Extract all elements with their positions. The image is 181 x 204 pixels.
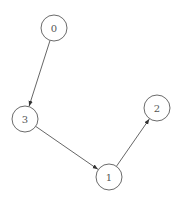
graph-node-0: 0 — [41, 15, 67, 41]
graph-canvas: 0123 — [0, 0, 181, 204]
graph-node-1: 1 — [96, 164, 122, 190]
edges-layer — [29, 40, 149, 169]
edge-3-to-1 — [36, 126, 98, 169]
arrow-icon — [116, 119, 149, 166]
node-label: 3 — [22, 114, 28, 125]
graph-node-2: 2 — [144, 95, 170, 121]
node-label: 2 — [154, 103, 160, 114]
edge-0-to-3 — [29, 40, 50, 106]
nodes-layer: 0123 — [12, 15, 170, 190]
graph-node-3: 3 — [12, 106, 38, 132]
edge-1-to-2 — [116, 119, 149, 166]
node-label: 1 — [106, 172, 112, 183]
node-label: 0 — [51, 23, 57, 34]
arrow-icon — [36, 126, 98, 169]
arrow-icon — [29, 40, 50, 106]
